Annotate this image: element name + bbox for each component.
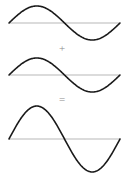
wave-1-plot (0, 0, 124, 46)
wave-panel-1 (0, 0, 124, 46)
wave-superposition-figure: + = (0, 0, 124, 175)
wave-sum-plot (0, 103, 124, 175)
wave-panel-sum (0, 103, 124, 175)
wave-2-plot (0, 52, 124, 98)
wave-panel-2 (0, 52, 124, 98)
